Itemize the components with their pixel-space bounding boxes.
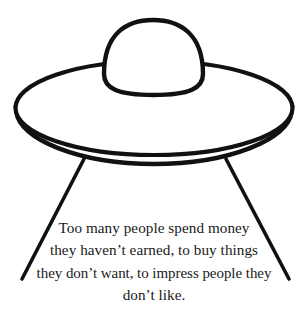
landing-legs [22, 159, 289, 279]
illustration-canvas: Too many people spend money they haven’t… [0, 0, 308, 325]
leg-right-icon [226, 159, 289, 279]
dome-icon [104, 20, 203, 95]
leg-left-icon [22, 159, 84, 279]
cockpit-dome [104, 20, 203, 95]
ufo-illustration [0, 0, 308, 325]
